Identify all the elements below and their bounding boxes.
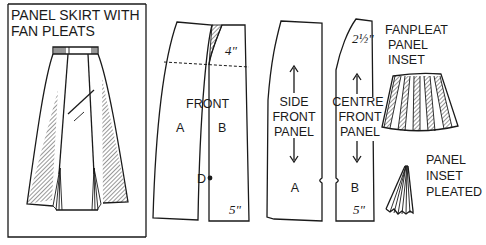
right-panel-seam bbox=[88, 54, 94, 174]
centre-front-hem-measure: 5" bbox=[353, 202, 366, 217]
side-front-section-a: A bbox=[291, 181, 300, 195]
centre-front-section-b: B bbox=[351, 181, 359, 195]
side-front-label-1: SIDE bbox=[279, 95, 308, 109]
waistband bbox=[53, 47, 98, 54]
side-front-label-2: FRONT bbox=[272, 110, 315, 124]
pleated-label-1: PANEL bbox=[426, 153, 466, 167]
skirt-illustration-panel: PANEL SKIRT WITH FAN PLEATS bbox=[8, 4, 146, 237]
left-panel-seam bbox=[59, 54, 68, 174]
skirt-drawing bbox=[27, 47, 128, 210]
left-side-shading bbox=[27, 90, 58, 204]
pleated-panel-inset: PANEL INSET PLEATED bbox=[386, 153, 482, 214]
front-section-b-label: B bbox=[218, 121, 226, 135]
title-line-1: PANEL SKIRT WITH bbox=[11, 7, 140, 23]
pleated-label-2: INSET bbox=[426, 169, 463, 183]
fanpleat-label-1: FANPLEAT bbox=[385, 23, 448, 37]
point-d-marker bbox=[208, 176, 213, 181]
title-line-2: FAN PLEATS bbox=[11, 23, 95, 39]
front-top-measure: 4" bbox=[225, 43, 238, 58]
pleated-fan-shape bbox=[386, 166, 413, 214]
left-fan-pleat bbox=[53, 168, 62, 210]
centre-front-top-measure: 2½" bbox=[352, 31, 374, 46]
centre-front-label-3: PANEL bbox=[340, 125, 380, 139]
side-front-panel-piece: SIDE FRONT PANEL A bbox=[267, 21, 322, 221]
centre-front-label-1: CENTRE bbox=[332, 95, 383, 109]
centre-front-label-2: FRONT bbox=[338, 110, 381, 124]
right-side-shading bbox=[102, 78, 128, 203]
fanpleat-inset: FANPLEAT PANEL INSET bbox=[382, 23, 458, 131]
sheen-stroke-2 bbox=[74, 112, 84, 121]
fanpleat-label-2: PANEL bbox=[388, 38, 428, 52]
centre-front-panel-piece: 2½" CENTRE FRONT PANEL B 5" bbox=[332, 19, 383, 221]
pleated-label-3: PLEATED bbox=[426, 185, 482, 199]
front-pattern-piece: 4" FRONT A B D 5" bbox=[153, 22, 249, 221]
front-section-a-label: A bbox=[176, 121, 185, 135]
waistband-gathers bbox=[55, 47, 96, 54]
fanpleat-shape bbox=[382, 73, 458, 131]
pattern-diagram: PANEL SKIRT WITH FAN PLEATS bbox=[0, 0, 486, 245]
right-fan-pleat bbox=[92, 168, 101, 210]
front-hem-measure: 5" bbox=[229, 202, 242, 217]
front-label: FRONT bbox=[186, 97, 229, 111]
side-front-label-3: PANEL bbox=[274, 125, 314, 139]
point-d-label: D bbox=[197, 172, 206, 186]
fanpleat-label-3: INSET bbox=[388, 53, 425, 67]
